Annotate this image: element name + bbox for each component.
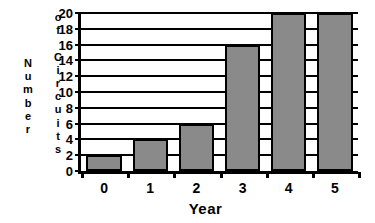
bar-year-5 xyxy=(317,13,352,171)
bar-chart-figure: Number of Circuits 02468101214161820 012… xyxy=(0,0,375,223)
y-axis-label-14: 14 xyxy=(49,54,73,67)
y-axis-label-16: 16 xyxy=(49,38,73,51)
y-axis-title-number-char-1: u xyxy=(20,70,36,83)
y-axis-tick-18 xyxy=(75,28,81,30)
y-axis-label-10: 10 xyxy=(49,86,73,99)
bar-year-2 xyxy=(179,124,214,171)
x-axis-label-0: 0 xyxy=(100,181,108,195)
x-axis-label-2: 2 xyxy=(193,181,201,195)
y-axis-label-4: 4 xyxy=(49,133,73,146)
y-axis-title-number-char-0: N xyxy=(20,57,36,70)
y-axis-label-6: 6 xyxy=(49,117,73,130)
y-axis-title-number-char-2: m xyxy=(20,83,36,96)
y-axis-tick-14 xyxy=(75,59,81,61)
y-axis-label-18: 18 xyxy=(49,22,73,35)
y-axis-tick-20 xyxy=(75,12,81,14)
y-axis-label-8: 8 xyxy=(49,101,73,114)
x-axis-title: Year xyxy=(0,200,375,217)
x-axis-tick-6 xyxy=(358,172,361,178)
x-axis-tick-5 xyxy=(312,172,315,178)
y-axis-tick-16 xyxy=(75,44,81,46)
x-axis-label-5: 5 xyxy=(331,181,339,195)
y-axis-tick-8 xyxy=(75,107,81,109)
x-axis-title-label: Year xyxy=(189,200,223,217)
x-axis-label-1: 1 xyxy=(146,181,154,195)
y-axis-tick-6 xyxy=(75,123,81,125)
y-axis-tick-4 xyxy=(75,138,81,140)
bar-year-0 xyxy=(86,155,121,171)
y-axis-label-2: 2 xyxy=(49,149,73,162)
y-axis-tick-12 xyxy=(75,75,81,77)
bar-year-4 xyxy=(271,13,306,171)
y-axis-title-number-char-3: b xyxy=(20,97,36,110)
plot-area: 02468101214161820 012345 xyxy=(78,13,358,174)
bar-year-1 xyxy=(133,139,168,171)
x-axis-tick-0 xyxy=(81,172,84,178)
y-axis-title-number: Number xyxy=(20,57,36,136)
y-axis-tick-10 xyxy=(75,91,81,93)
x-axis-tick-2 xyxy=(173,172,176,178)
y-axis-title-number-char-4: e xyxy=(20,110,36,123)
x-axis-tick-4 xyxy=(266,172,269,178)
x-axis-tick-1 xyxy=(127,172,130,178)
y-axis-title-number-char-5: r xyxy=(20,123,36,136)
bar-year-3 xyxy=(225,45,260,171)
y-axis-label-0: 0 xyxy=(49,165,73,178)
y-axis-tick-2 xyxy=(75,154,81,156)
x-axis-tick-3 xyxy=(220,172,223,178)
y-axis-label-12: 12 xyxy=(49,70,73,83)
x-axis-label-4: 4 xyxy=(285,181,293,195)
x-axis-label-3: 3 xyxy=(239,181,247,195)
y-axis-label-20: 20 xyxy=(49,7,73,20)
